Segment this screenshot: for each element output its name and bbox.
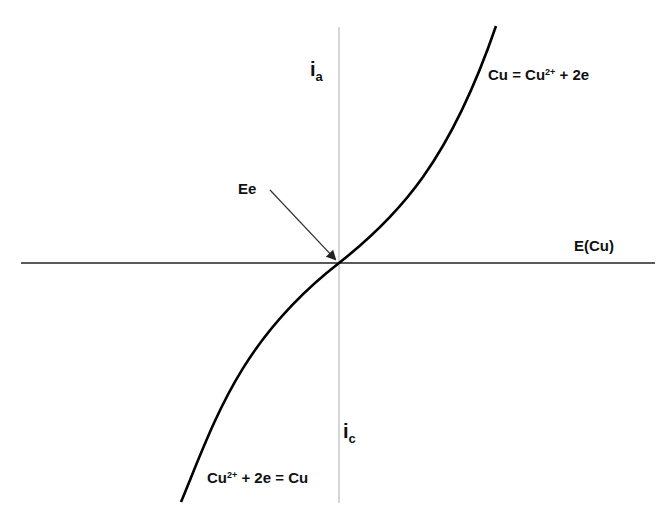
polarization-diagram: ia ic Ee E(Cu) Cu = Cu2+ + 2e Cu2+ + 2e … — [0, 0, 668, 517]
equilibrium-arrow — [270, 190, 335, 259]
equilibrium-potential-label: Ee — [238, 181, 256, 196]
cathodic-reaction-label: Cu2+ + 2e = Cu — [207, 470, 308, 485]
potential-axis-label: E(Cu) — [574, 238, 614, 253]
anodic-current-label: ia — [310, 59, 323, 79]
anodic-reaction-label: Cu = Cu2+ + 2e — [488, 67, 589, 82]
cathodic-current-label: ic — [343, 421, 356, 441]
